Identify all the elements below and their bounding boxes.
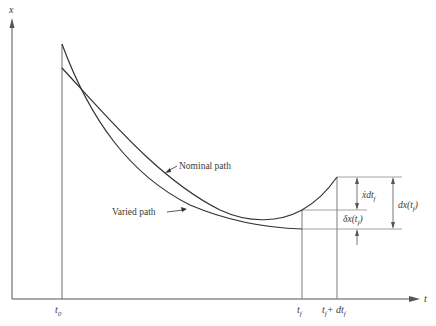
nominal-path-label: Nominal path xyxy=(179,161,231,171)
svg-text:ẋdtf: ẋdtf xyxy=(361,190,377,203)
varied-path-annotation: Varied path xyxy=(112,207,187,217)
svg-text:δx(tf): δx(tf) xyxy=(343,214,363,227)
t-axis: t xyxy=(12,293,427,304)
svg-text:tf+ dtf: tf+ dtf xyxy=(322,304,347,318)
arrow-up-icon xyxy=(355,229,359,236)
nominal-path-annotation: Nominal path xyxy=(165,161,231,173)
nominal-arrow-icon xyxy=(165,168,171,173)
varied-arrow-icon xyxy=(181,207,187,212)
dx-dimension: dx(tf) xyxy=(391,177,418,229)
xdot-dtf-label: ẋdt xyxy=(361,190,374,200)
svg-text:tf: tf xyxy=(297,304,303,318)
y-axis-label: x xyxy=(8,4,14,15)
arrow-down-icon xyxy=(391,222,395,229)
delta-x-dimension: δx(tf) xyxy=(343,214,363,245)
svg-text:t0: t0 xyxy=(55,304,62,318)
arrow-up-icon xyxy=(355,177,359,184)
dx-label: dx(t xyxy=(398,200,413,211)
y-axis-arrow-icon xyxy=(10,18,15,28)
delta-x-label: δx(t xyxy=(343,214,358,225)
xdot-dtf-dimension: ẋdtf xyxy=(355,177,377,210)
varied-path-label: Varied path xyxy=(112,207,156,217)
nominal-path-curve xyxy=(62,44,302,229)
variation-diagram: x t Nominal path Varied path ẋdtf xyxy=(0,0,436,326)
varied-path-curve xyxy=(62,68,337,220)
t-axis-label: t xyxy=(424,293,427,304)
svg-text:dx(tf): dx(tf) xyxy=(398,200,418,213)
arrow-up-icon xyxy=(391,177,395,184)
t-axis-arrow-icon xyxy=(409,296,420,302)
y-axis: x xyxy=(8,4,15,299)
arrow-down-icon xyxy=(355,203,359,210)
